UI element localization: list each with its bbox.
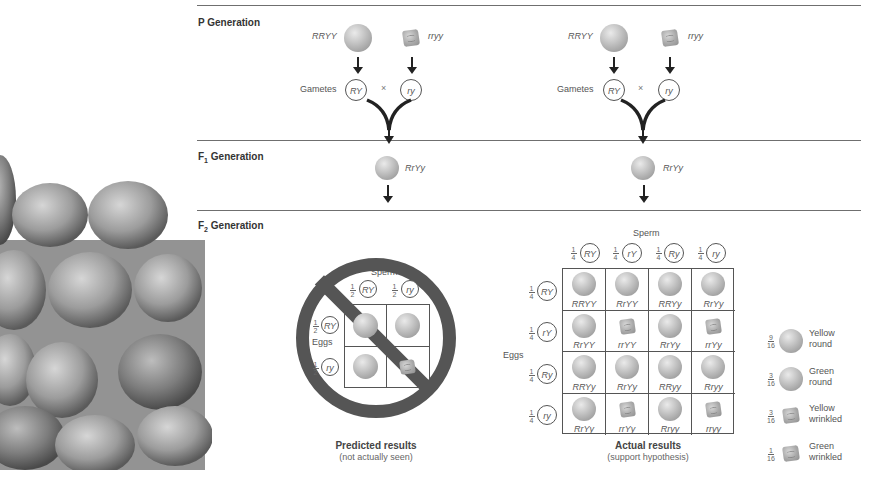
- wrinkled-pea-icon: [399, 359, 416, 375]
- predicted-note: (not actually seen): [316, 452, 436, 462]
- arrow-down-icon: [387, 185, 389, 198]
- fraction-den: 4: [528, 334, 535, 341]
- punnett-cell: RrYy: [649, 311, 692, 353]
- egg-gamete: ry: [537, 405, 557, 425]
- arrow-down-icon: [643, 185, 645, 198]
- cell-genotype: RRyy: [649, 382, 691, 392]
- fraction-num: 1: [766, 447, 776, 454]
- fraction-num: 1: [312, 319, 319, 326]
- arrow-down-icon: [411, 57, 413, 69]
- egg-gamete: RY: [321, 316, 339, 334]
- wrinkled-pea-icon: [705, 318, 722, 335]
- punnett-cell: Rryy: [692, 352, 735, 394]
- egg-gamete: rY: [537, 322, 557, 342]
- sperm-gamete: ry: [706, 243, 726, 263]
- wrinkled-pea-icon: [782, 445, 800, 462]
- arrow-down-icon: [669, 57, 671, 69]
- cell-genotype: RrYY: [606, 299, 648, 309]
- cell-genotype: rrYy: [606, 424, 648, 434]
- wrinkled-pea-icon: [619, 318, 636, 335]
- round-pea-icon: [658, 355, 682, 379]
- fraction-num: 1: [312, 361, 319, 368]
- f1-suffix: Generation: [208, 151, 264, 162]
- legend-line1: Yellow: [809, 403, 835, 413]
- fraction-den: 16: [766, 417, 776, 424]
- fraction-den: 2: [349, 291, 356, 298]
- round-pea-icon: [344, 24, 372, 52]
- punnett-cell: RRYY: [563, 269, 606, 311]
- cell-genotype: Rryy: [692, 382, 735, 392]
- sperm-gamete: rY: [622, 243, 642, 263]
- cell-genotype: RrYy: [563, 424, 605, 434]
- legend-line2: wrinkled: [809, 414, 842, 424]
- legend-label: Greenwrinkled: [809, 441, 842, 463]
- sperm-gamete: RY: [580, 243, 600, 263]
- wrinkled-pea-icon: [661, 29, 679, 47]
- fraction-num: 1: [612, 246, 619, 253]
- divider-p-f1: [197, 140, 861, 141]
- parent2-genotype: rryy: [428, 31, 443, 41]
- round-pea-icon: [701, 272, 725, 296]
- wrinkled-pea-icon: [402, 29, 420, 47]
- f1-generation-label: F1 Generation: [198, 151, 264, 164]
- fraction-den: 4: [697, 254, 704, 261]
- fraction: 14: [528, 326, 535, 341]
- f1-pea-icon: [631, 156, 655, 180]
- fraction-num: 1: [697, 246, 704, 253]
- fraction-den: 4: [655, 254, 662, 261]
- cell-genotype: RrYy: [692, 299, 735, 309]
- fraction-num: 1: [391, 283, 398, 290]
- fraction: 14: [697, 246, 704, 261]
- round-pea-icon: [779, 367, 803, 391]
- round-pea-icon: [658, 272, 682, 296]
- round-pea-icon: [353, 313, 378, 338]
- legend-line2: wrinkled: [809, 452, 842, 462]
- round-pea-icon: [572, 355, 596, 379]
- cell-genotype: rryy: [692, 424, 735, 434]
- round-pea-icon: [353, 354, 378, 379]
- egg-gamete: Ry: [537, 364, 557, 384]
- legend-line2: round: [809, 377, 832, 387]
- legend-fraction: 316: [766, 372, 776, 387]
- legend-label: Yellowround: [809, 328, 835, 350]
- fraction: 14: [528, 409, 535, 424]
- p-generation-label: P Generation: [198, 17, 260, 28]
- cell-genotype: RRYY: [563, 299, 605, 309]
- f1-genotype-right: RrYy: [663, 163, 683, 173]
- round-pea-icon: [615, 355, 639, 379]
- round-pea-icon: [572, 397, 596, 421]
- gametes-label: Gametes: [557, 84, 594, 94]
- eggs-label: Eggs: [503, 350, 524, 360]
- sperm-gamete: Ry: [664, 243, 684, 263]
- wrinkled-pea-icon: [619, 401, 636, 418]
- punnett-cell: RrYy: [692, 269, 735, 311]
- fraction: 12: [349, 283, 356, 298]
- round-pea-icon: [600, 24, 628, 52]
- cell-genotype: RrYy: [649, 340, 691, 350]
- cell-genotype: RrYY: [563, 340, 605, 350]
- wrinkled-pea-icon: [705, 401, 722, 418]
- fraction: 14: [528, 368, 535, 383]
- parent2-genotype: rryy: [688, 31, 703, 41]
- fraction-den: 4: [528, 293, 535, 300]
- f2-generation-label: F2 Generation: [198, 220, 264, 233]
- fraction: 12: [312, 319, 319, 334]
- punnett-cell: RrYY: [563, 311, 606, 353]
- fraction-den: 2: [312, 327, 319, 334]
- arrow-down-icon: [613, 57, 615, 69]
- punnett-grid: RRYYRrYYRRYyRrYyRrYYrrYYRrYyrrYyRRYyRrYy…: [562, 268, 734, 434]
- fraction-num: 1: [528, 326, 535, 333]
- round-pea-icon: [572, 272, 596, 296]
- round-pea-icon: [615, 272, 639, 296]
- merge-arrow-icon: [619, 98, 669, 146]
- fraction: 14: [612, 246, 619, 261]
- punnett-cell: RRYy: [563, 352, 606, 394]
- fraction-den: 4: [528, 417, 535, 424]
- sperm-label: Sperm: [633, 228, 660, 238]
- egg-gamete: ry: [321, 358, 339, 376]
- punnett-cell: rrYy: [606, 394, 649, 436]
- punnett-cell: rrYy: [692, 311, 735, 353]
- fraction-den: 4: [570, 254, 577, 261]
- f2-suffix: Generation: [208, 220, 264, 231]
- fraction-num: 1: [349, 283, 356, 290]
